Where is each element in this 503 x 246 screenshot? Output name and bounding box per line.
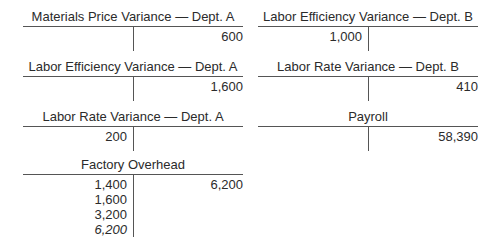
divider bbox=[368, 27, 369, 51]
account-title: Labor Rate Variance — Dept. B bbox=[258, 59, 478, 74]
credit-amount: 600 bbox=[139, 29, 243, 44]
divider bbox=[133, 127, 134, 151]
credit-amount: 410 bbox=[374, 79, 478, 94]
credit-amount: 58,390 bbox=[374, 129, 478, 144]
credit-column: 1,600 bbox=[139, 79, 243, 94]
credit-amount: 6,200 bbox=[139, 177, 243, 192]
debit-amount: 3,200 bbox=[23, 207, 127, 222]
divider bbox=[368, 127, 369, 151]
debit-total: 6,200 bbox=[23, 222, 127, 237]
account-title: Factory Overhead bbox=[23, 157, 243, 172]
credit-column: 410 bbox=[374, 79, 478, 94]
credit-column: 6,200 bbox=[139, 177, 243, 192]
debit-column: 1,400 1,600 3,200 6,200 bbox=[23, 177, 127, 237]
debit-amount: 1,000 bbox=[258, 29, 362, 44]
debit-amount: 1,400 bbox=[23, 177, 127, 192]
debit-amount: 200 bbox=[23, 129, 127, 144]
credit-amount: 1,600 bbox=[139, 79, 243, 94]
account-title: Labor Efficiency Variance — Dept. B bbox=[258, 9, 478, 24]
divider bbox=[368, 77, 369, 101]
account-title: Materials Price Variance — Dept. A bbox=[23, 9, 243, 24]
divider bbox=[133, 27, 134, 51]
account-title: Labor Efficiency Variance — Dept. A bbox=[23, 59, 243, 74]
divider bbox=[133, 175, 134, 237]
divider bbox=[133, 77, 134, 101]
debit-amount: 1,600 bbox=[23, 192, 127, 207]
account-title: Labor Rate Variance — Dept. A bbox=[23, 109, 243, 124]
debit-column: 1,000 bbox=[258, 29, 362, 44]
account-title: Payroll bbox=[258, 109, 478, 124]
credit-column: 58,390 bbox=[374, 129, 478, 144]
debit-column: 200 bbox=[23, 129, 127, 144]
credit-column: 600 bbox=[139, 29, 243, 44]
